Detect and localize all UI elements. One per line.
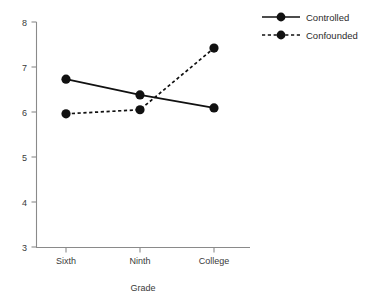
legend-marker-controlled [277,13,286,22]
y-tick-label-3: 3 [22,243,27,253]
y-tick-label-6: 6 [22,108,27,118]
x-axis: Sixth Ninth College Grade [36,248,250,294]
x-tick-label-college: College [199,256,230,266]
x-axis-title: Grade [130,283,155,293]
line-chart: 8 7 6 5 4 3 Sixth Ninth College Grade [0,0,366,304]
x-tick-label-sixth: Sixth [56,256,76,266]
data-point-confounded-ninth [135,105,144,114]
y-tick-label-5: 5 [22,153,27,163]
series-confounded [61,44,218,119]
y-tick-label-7: 7 [22,63,27,73]
legend-entry-controlled: Controlled [262,12,349,23]
y-tick-label-4: 4 [22,198,27,208]
data-point-confounded-college [209,44,218,53]
y-axis: 8 7 6 5 4 3 [22,18,37,253]
series-markers-confounded [61,44,218,119]
chart-legend: Controlled Confounded [262,12,358,41]
x-tick-label-ninth: Ninth [129,256,150,266]
legend-label-controlled: Controlled [306,12,349,23]
data-point-confounded-sixth [61,109,70,118]
data-point-controlled-ninth [135,90,144,99]
legend-entry-confounded: Confounded [262,30,358,41]
data-point-controlled-college [209,103,218,112]
y-tick-label-8: 8 [22,18,27,28]
legend-label-confounded: Confounded [306,30,358,41]
data-point-controlled-sixth [61,75,70,84]
legend-marker-confounded [277,31,286,40]
chart-figure: 8 7 6 5 4 3 Sixth Ninth College Grade [0,0,366,304]
